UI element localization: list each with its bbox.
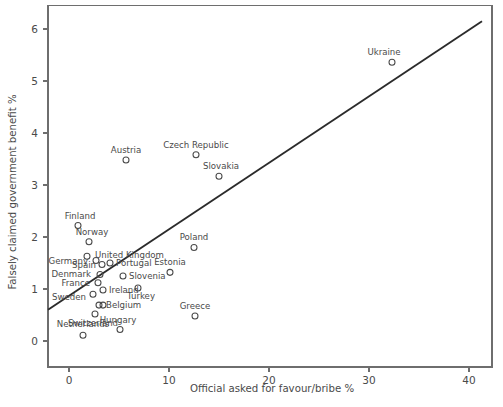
fitted-trend-line (48, 21, 482, 310)
data-point-label-greece: Greece (180, 301, 211, 311)
x-tick-label: 10 (162, 374, 175, 386)
data-point-label-slovenia: Slovenia (129, 271, 166, 281)
plot-area: 0102030400123456 UkraineCzech RepublicAu… (0, 0, 503, 407)
y-tick-label: 3 (31, 179, 38, 191)
data-point-label-slovakia: Slovakia (203, 161, 239, 171)
data-point-poland (191, 244, 197, 250)
data-point-label-portugal: Portugal (116, 258, 152, 268)
data-point-label-finland: Finland (65, 211, 96, 221)
data-point-label-spain: Spain (72, 260, 96, 270)
data-point-norway (86, 239, 92, 245)
data-point-ireland (100, 287, 106, 293)
data-point-label-netherlands: Netherlands (57, 319, 110, 329)
data-point-label-austria: Austria (111, 145, 141, 155)
data-point-ukraine (389, 59, 395, 65)
y-axis-title: Falsely claimed government benefit % (7, 94, 18, 290)
data-point-label-norway: Norway (76, 227, 109, 237)
trend-line (48, 21, 482, 310)
y-tick-label: 0 (31, 335, 38, 347)
data-point-sweden (90, 291, 96, 297)
data-point-label-czech-republic: Czech Republic (163, 140, 229, 150)
x-tick-label: 30 (362, 374, 375, 386)
data-point-label-belgium: Belgium (106, 300, 141, 310)
data-point-netherlands (80, 332, 86, 338)
x-tick-label: 40 (462, 374, 475, 386)
x-axis-title: Official asked for favour/bribe % (190, 383, 355, 394)
data-point-slovenia (120, 273, 126, 279)
data-point-france (95, 280, 101, 286)
data-point-label-estonia: Estonia (154, 257, 186, 267)
data-point-label-france: France (61, 278, 90, 288)
data-point-greece (192, 313, 198, 319)
x-tick-label: 0 (66, 374, 73, 386)
data-point-czech-republic (193, 152, 199, 158)
data-point-label-ireland: Ireland (109, 285, 139, 295)
data-point-label-ukraine: Ukraine (367, 47, 400, 57)
data-point-label-poland: Poland (180, 232, 209, 242)
data-point-switzerland (92, 311, 98, 317)
data-point-slovakia (216, 173, 222, 179)
y-tick-label: 2 (31, 231, 38, 243)
scatter-chart: 0102030400123456 UkraineCzech RepublicAu… (0, 0, 503, 407)
tick-labels: 0102030400123456 (31, 23, 475, 386)
data-point-spain (99, 262, 105, 268)
y-tick-label: 6 (31, 23, 38, 35)
y-tick-label: 1 (31, 283, 38, 295)
y-tick-label: 4 (31, 127, 38, 139)
data-point-estonia (167, 269, 173, 275)
data-points (75, 59, 395, 338)
data-point-portugal (107, 260, 113, 266)
data-point-austria (123, 157, 129, 163)
data-point-label-sweden: Sweden (52, 292, 86, 302)
y-tick-label: 5 (31, 75, 38, 87)
